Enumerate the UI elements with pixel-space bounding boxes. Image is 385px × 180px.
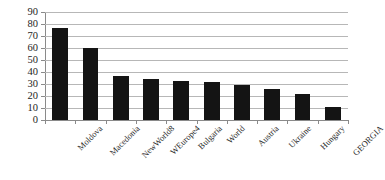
bar: [204, 82, 220, 120]
y-axis-tick-label: 70: [16, 31, 38, 41]
y-axis-tick-mark: [41, 36, 45, 37]
bar: [143, 79, 159, 120]
y-axis-tick-label: 60: [16, 43, 38, 53]
x-axis-tick-label-text: Ukraine: [287, 124, 313, 150]
y-axis-tick-mark: [41, 12, 45, 13]
x-axis-tick-label-text: World: [225, 124, 246, 145]
y-axis-tick-mark: [41, 60, 45, 61]
y-axis-tick-label: 30: [16, 79, 38, 89]
x-axis-tick-mark: [257, 120, 258, 124]
y-axis-tick-mark: [41, 72, 45, 73]
x-axis-tick-label-text: Moldova: [76, 124, 104, 152]
y-axis-tick-label: 10: [16, 103, 38, 113]
y-axis-tick-mark: [41, 120, 45, 121]
x-axis-tick-label-text: Austria: [256, 124, 280, 148]
x-axis-tick-label-text: Hungary: [318, 124, 346, 152]
y-axis-tick-label: 80: [16, 19, 38, 29]
x-axis-tick-mark: [287, 120, 288, 124]
x-axis-tick-label-text: NewWorld8: [140, 124, 176, 160]
bar: [113, 76, 129, 120]
x-axis-tick-mark: [318, 120, 319, 124]
x-axis-tick-mark: [106, 120, 107, 124]
y-axis-tick-label: 0: [16, 115, 38, 125]
x-axis-tick-label: Macedonia: [109, 124, 142, 157]
x-axis-tick-mark: [227, 120, 228, 124]
bar: [52, 28, 68, 120]
y-axis-tick-mark: [41, 108, 45, 109]
plot-area: [45, 12, 348, 120]
y-axis-tick-label: 90: [16, 7, 38, 17]
y-axis-tick-labels: 0102030405060708090: [10, 0, 38, 180]
x-axis-tick-label-text: GEORGIA: [351, 124, 385, 158]
x-axis-tick-mark: [348, 120, 349, 124]
bar: [325, 107, 341, 120]
bar: [83, 48, 99, 120]
y-axis-tick-mark: [41, 96, 45, 97]
y-axis-tick-label: 50: [16, 55, 38, 65]
bar: [234, 85, 250, 120]
y-axis-tick-mark: [41, 84, 45, 85]
y-axis-tick-label: 40: [16, 67, 38, 77]
x-axis-tick-label: GEORGIA: [351, 124, 385, 158]
gridline: [45, 24, 348, 25]
x-axis-tick-label: Bulgaria: [197, 124, 224, 151]
gridline: [45, 36, 348, 37]
x-axis-tick-label-text: Macedonia: [109, 124, 142, 157]
x-axis-tick-label-text: Bulgaria: [197, 124, 224, 151]
bar: [173, 81, 189, 120]
x-axis-tick-label: Ukraine: [287, 124, 313, 150]
x-axis-tick-mark: [197, 120, 198, 124]
x-axis-tick-label: NewWorld8: [140, 124, 176, 160]
y-axis-tick-mark: [41, 48, 45, 49]
x-axis-tick-mark: [45, 120, 46, 124]
x-axis-tick-label: World: [225, 124, 246, 145]
x-axis-tick-label: Austria: [256, 124, 280, 148]
x-axis-tick-label: Moldova: [76, 124, 104, 152]
x-axis-tick-label: Hungary: [318, 124, 346, 152]
gridline: [45, 12, 348, 13]
bar: [295, 94, 311, 120]
y-axis-tick-mark: [41, 24, 45, 25]
x-axis-tick-mark: [75, 120, 76, 124]
y-axis-tick-label: 20: [16, 91, 38, 101]
bar: [264, 89, 280, 120]
x-axis-tick-mark: [136, 120, 137, 124]
